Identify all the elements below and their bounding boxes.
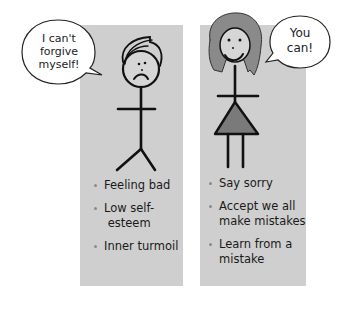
speech-line: You — [276, 26, 324, 41]
bullet-icon — [94, 245, 97, 248]
list-item: Accept we all make mistakes — [209, 199, 309, 229]
bullet-icon — [209, 182, 212, 185]
list-item: Learn from a mistake — [209, 237, 309, 267]
list-item: Low self- esteem — [94, 201, 184, 231]
sad-stick-figure — [117, 37, 162, 170]
speech-line: can! — [276, 41, 324, 56]
list-item-text: Say sorry — [219, 176, 273, 190]
list-item: Say sorry — [209, 176, 309, 191]
list-item-text: Accept we all make mistakes — [219, 199, 306, 228]
list-item-text: Learn from a mistake — [219, 237, 292, 266]
speech-text-right: You can! — [276, 26, 324, 56]
speech-text-left: I can't forgive myself! — [28, 32, 90, 71]
bullet-icon — [94, 184, 97, 187]
speech-line: forgive — [28, 45, 90, 58]
positive-actions-list: Say sorry Accept we all make mistakes Le… — [209, 176, 309, 275]
list-item: Feeling bad — [94, 178, 184, 193]
list-item: Inner turmoil — [94, 239, 184, 254]
bullet-icon — [209, 205, 212, 208]
list-item-text: Feeling bad — [104, 178, 170, 192]
list-item-text: Inner turmoil — [104, 239, 178, 253]
speech-line: I can't — [28, 32, 90, 45]
bullet-icon — [94, 207, 97, 210]
negative-effects-list: Feeling bad Low self- esteem Inner turmo… — [94, 178, 184, 262]
list-item-text: Low self- esteem — [104, 201, 154, 230]
bullet-icon — [209, 243, 212, 246]
speech-line: myself! — [28, 58, 90, 71]
happy-stick-figure — [209, 13, 262, 167]
